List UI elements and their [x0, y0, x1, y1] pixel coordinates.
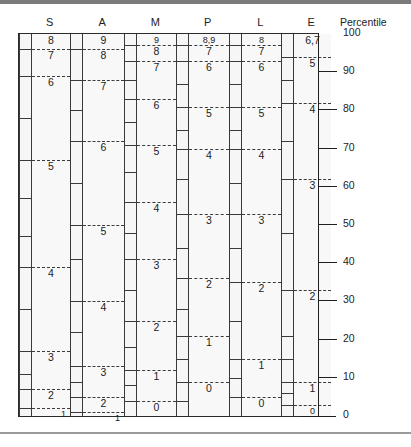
- score-label: 4: [242, 150, 281, 161]
- axis-baseline: [300, 416, 336, 417]
- score-segment: 6: [189, 61, 229, 107]
- score-segment: 7: [83, 80, 124, 141]
- axis-tick-label: 50: [343, 217, 355, 229]
- score-label: 1: [137, 371, 176, 382]
- score-segment: 1: [189, 336, 229, 382]
- score-segment: 3: [83, 366, 124, 397]
- scale-tick: [230, 130, 241, 131]
- score-label: 8: [83, 50, 124, 61]
- scale-tick: [177, 61, 188, 62]
- score-label: 3: [242, 215, 281, 226]
- score-band-s[interactable]: 87654321: [32, 34, 70, 416]
- scale-tick: [20, 267, 31, 268]
- axis-tick-label: 30: [343, 293, 355, 305]
- score-segment: 7: [32, 49, 70, 76]
- scale-tick: [230, 359, 241, 360]
- scale-tick: [20, 309, 31, 310]
- scale-tick: [177, 149, 188, 150]
- score-label: 9: [83, 35, 124, 46]
- scale-tick: [71, 301, 82, 302]
- score-segment: 5: [137, 145, 176, 202]
- scale-tick: [125, 370, 136, 371]
- scale-tick: [20, 236, 31, 237]
- axis-tick: [319, 300, 337, 301]
- tick-strip-s: [19, 34, 32, 416]
- score-label: 1: [294, 383, 331, 394]
- scale-tick: [20, 118, 31, 119]
- score-band-a[interactable]: 987654321: [83, 34, 124, 416]
- scale-tick: [230, 149, 241, 150]
- score-segment: 1: [137, 370, 176, 401]
- scale-tick: [177, 130, 188, 131]
- score-segment: 4: [242, 149, 281, 214]
- score-segment: 9: [83, 34, 124, 49]
- scale-tick: [71, 397, 82, 398]
- scale-tick: [177, 84, 188, 85]
- scale-tick: [20, 198, 31, 199]
- score-segment: 0: [137, 401, 176, 416]
- scale-tick: [125, 290, 136, 291]
- profile-chart: 8765432198765432198765432108,97654321087…: [18, 33, 318, 417]
- column-header-m: M: [136, 16, 175, 28]
- scale-tick: [177, 278, 188, 279]
- score-segment: 8: [242, 34, 281, 45]
- score-segment: 3: [32, 351, 70, 389]
- scale-tick: [71, 412, 82, 413]
- score-label: 1: [189, 337, 229, 348]
- score-label: 5: [137, 146, 176, 157]
- score-segment: 5: [83, 225, 124, 301]
- scale-tick: [177, 214, 188, 215]
- score-label: 4: [32, 268, 70, 279]
- score-segment: 6: [32, 76, 70, 160]
- axis-tick-label: 0: [343, 408, 349, 420]
- score-segment: 3: [294, 179, 331, 290]
- score-label: 3: [137, 260, 176, 271]
- score-label: 2: [137, 322, 176, 333]
- scale-tick: [20, 351, 31, 352]
- scale-tick: [71, 259, 82, 260]
- scale-tick: [230, 321, 241, 322]
- score-segment: 8: [83, 49, 124, 80]
- tick-strip-e: [281, 34, 294, 416]
- scale-tick: [230, 378, 241, 379]
- score-band-l[interactable]: 876543210: [242, 34, 281, 416]
- score-label: 7: [137, 62, 176, 73]
- score-label: 8: [242, 35, 281, 46]
- scale-tick: [125, 259, 136, 260]
- score-label: 7: [242, 46, 281, 57]
- score-segment: 7: [242, 45, 281, 60]
- column-header-s: S: [31, 16, 69, 28]
- score-label: 9: [137, 35, 176, 46]
- axis-tick-label: 40: [343, 255, 355, 267]
- score-segment: 0: [294, 405, 331, 416]
- scale-tick: [282, 80, 293, 81]
- score-band-m[interactable]: 9876543210: [137, 34, 176, 416]
- scale-tick: [20, 76, 31, 77]
- scale-tick: [230, 107, 241, 108]
- scale-tick: [71, 183, 82, 184]
- scale-tick: [20, 389, 31, 390]
- score-segment: 0: [242, 397, 281, 416]
- score-segment: 1: [294, 382, 331, 405]
- scale-tick: [125, 145, 136, 146]
- score-segment: 4: [137, 202, 176, 259]
- scale-tick: [282, 141, 293, 142]
- score-label: 8: [137, 46, 176, 57]
- score-band-e[interactable]: 6,7543210: [294, 34, 331, 416]
- scale-tick: [20, 408, 31, 409]
- score-segment: 0: [189, 382, 229, 416]
- axis-tick-label: 20: [343, 332, 355, 344]
- score-label: 2: [83, 398, 124, 409]
- score-segment: 3: [137, 259, 176, 320]
- scale-tick: [177, 107, 188, 108]
- score-label: 5: [83, 226, 124, 237]
- column-header-p: P: [188, 16, 228, 28]
- score-segment: 1: [83, 412, 124, 416]
- score-segment: 8,9: [189, 34, 229, 45]
- scale-tick: [177, 336, 188, 337]
- score-band-p[interactable]: 8,976543210: [189, 34, 229, 416]
- scale-tick: [125, 80, 136, 81]
- score-label: 0: [242, 398, 281, 409]
- score-label: 7: [32, 50, 70, 61]
- scale-tick: [282, 336, 293, 337]
